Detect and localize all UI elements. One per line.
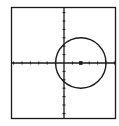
graph-screen xyxy=(0,0,119,126)
center-point xyxy=(79,61,83,65)
